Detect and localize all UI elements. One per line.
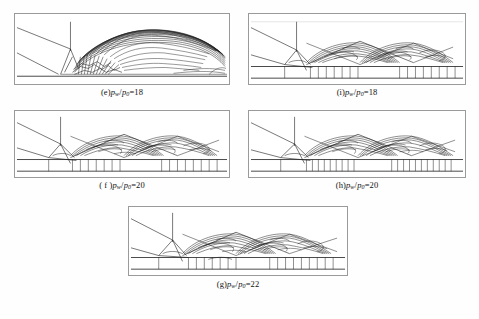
- caption-h-prefix: (h): [336, 180, 346, 190]
- caption-h: (h)pw/p0=20: [248, 180, 466, 190]
- panel-image-g: [128, 206, 348, 276]
- caption-g-prefix: (g): [217, 279, 227, 289]
- caption-f: ( f )pw/p0=20: [14, 180, 230, 190]
- caption-h-value: =20: [365, 180, 379, 190]
- caption-e-value: =18: [129, 87, 143, 97]
- caption-g: (g)pw/p0=22: [128, 279, 348, 289]
- caption-g-value: =22: [246, 279, 260, 289]
- figure-container: (e)pw/p0=18: [0, 0, 479, 319]
- caption-e: (e)pw/p0=18: [14, 87, 230, 97]
- schlieren-plot-g: [129, 207, 347, 275]
- caption-i-value: =18: [364, 87, 378, 97]
- schlieren-plot-i: [249, 14, 465, 84]
- caption-i-prefix: (i): [337, 87, 345, 97]
- schlieren-plot-f: [15, 111, 229, 177]
- caption-e-prefix: (e): [101, 87, 111, 97]
- schlieren-plot-h: [249, 111, 465, 177]
- panel-image-e: [14, 13, 230, 85]
- panel-image-h: [248, 110, 466, 178]
- caption-i: (i)pw/p0=18: [248, 87, 466, 97]
- panel-image-f: [14, 110, 230, 178]
- panel-image-i: [248, 13, 466, 85]
- schlieren-plot-e: [15, 14, 229, 84]
- caption-f-prefix: ( f ): [99, 180, 112, 190]
- caption-f-value: =20: [131, 180, 145, 190]
